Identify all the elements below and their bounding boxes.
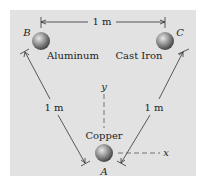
x-axis-label: x <box>163 147 169 158</box>
copper-label: Copper <box>85 130 122 141</box>
sphere-c <box>156 32 174 50</box>
point-b-label: B <box>22 27 30 38</box>
point-c-label: C <box>176 27 184 38</box>
sphere-a <box>95 144 113 162</box>
diagram: 1 m 1 m 1 m y x B Aluminum C Cast Iron C… <box>0 0 208 186</box>
y-axis-label: y <box>100 81 107 92</box>
cast-iron-label: Cast Iron <box>115 50 163 61</box>
point-a-label: A <box>99 166 107 177</box>
top-dimension-label: 1 m <box>92 16 112 27</box>
sphere-b <box>32 32 50 50</box>
left-dimension-label: 1 m <box>44 102 64 113</box>
aluminum-label: Aluminum <box>46 50 99 61</box>
right-dimension-label: 1 m <box>144 102 164 113</box>
